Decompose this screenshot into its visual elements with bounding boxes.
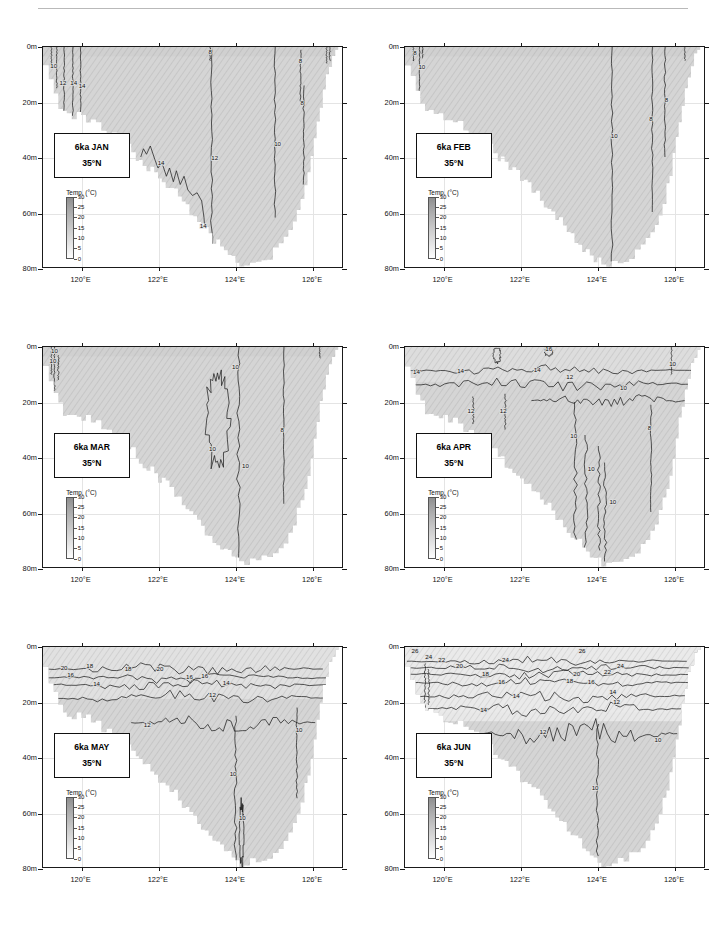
contour-label: 8: [649, 115, 653, 122]
colorbar-gradient: [66, 797, 74, 859]
contour-label: 14: [79, 82, 86, 89]
colorbar-tick-label: 20: [78, 514, 85, 520]
colorbar-tick-mark: [436, 228, 439, 229]
colorbar-tick-mark: [436, 248, 439, 249]
y-axis-tick: [704, 403, 709, 404]
colorbar-tick-label: 25: [440, 204, 447, 210]
contour-label: 8: [648, 424, 652, 431]
x-axis-tick: [675, 267, 676, 271]
x-axis-tick: [444, 267, 445, 271]
contour-label: 8: [665, 96, 669, 103]
colorbar-tick-mark: [74, 197, 77, 198]
colorbar-tick-label: 30: [78, 194, 85, 200]
y-axis-tick: [400, 569, 405, 570]
y-axis-label: 20m: [372, 397, 399, 406]
y-axis-tick: [704, 514, 709, 515]
contour-label: 22: [438, 656, 445, 663]
colorbar-tick-mark: [74, 548, 77, 549]
y-axis-label: 80m: [10, 264, 37, 273]
contour-label: 22: [604, 668, 611, 675]
x-axis-label: 122°E: [148, 575, 168, 584]
x-axis-tick: [82, 867, 83, 871]
panel-latitude-label: 35°N: [444, 759, 463, 768]
colorbar-gradient: [428, 497, 436, 559]
y-axis-label: 20m: [372, 697, 399, 706]
y-axis-label: 40m: [10, 753, 37, 762]
x-axis-tick: [313, 867, 314, 871]
contour-label: 26: [412, 647, 419, 654]
colorbar-ticks: 302520151050: [438, 197, 454, 259]
panel-month-label: 6ka MAY: [74, 743, 109, 752]
y-axis-tick: [704, 869, 709, 870]
colorbar-tick-mark: [74, 538, 77, 539]
colorbar-tick-mark: [74, 238, 77, 239]
colorbar-tick-mark: [74, 848, 77, 849]
y-axis-tick: [342, 403, 347, 404]
y-axis-tick: [704, 347, 709, 348]
y-axis-tick: [704, 47, 709, 48]
contour-label: 10: [611, 132, 618, 139]
x-axis-label: 126°E: [302, 575, 322, 584]
colorbar-tick-mark: [436, 207, 439, 208]
colorbar-tick-mark: [436, 817, 439, 818]
colorbar-tick-label: 30: [440, 794, 447, 800]
colorbar-tick-mark: [74, 817, 77, 818]
y-axis-label: 40m: [372, 153, 399, 162]
y-axis-label: 60m: [10, 508, 37, 517]
y-axis-tick: [342, 347, 347, 348]
contour-label: 8: [413, 49, 417, 56]
colorbar-tick-mark: [436, 238, 439, 239]
x-axis-tick: [444, 567, 445, 571]
colorbar-tick-label: 20: [440, 214, 447, 220]
contour-label: 12: [613, 698, 620, 705]
y-axis-tick: [704, 214, 709, 215]
y-axis-tick: [342, 869, 347, 870]
contour-label: 14: [200, 222, 207, 229]
y-axis-tick: [342, 569, 347, 570]
colorbar-tick-mark: [74, 517, 77, 518]
contour-label: 14: [93, 680, 100, 687]
contour-label: 12: [500, 407, 507, 414]
y-axis-tick: [400, 269, 405, 270]
y-axis-label: 0m: [372, 642, 399, 651]
colorbar-tick-mark: [436, 517, 439, 518]
x-axis-label: 122°E: [148, 875, 168, 884]
contour-label: 16: [545, 347, 552, 352]
contour-label: 10: [296, 726, 303, 733]
colorbar-tick-label: 5: [78, 845, 81, 851]
contour-label: 18: [125, 665, 132, 672]
contour-label: 18: [86, 662, 93, 669]
contour-label: 10: [51, 347, 58, 354]
plot-area-jun: 2426242226202418222016181614141412121010…: [404, 646, 705, 868]
colorbar-tick-mark: [436, 528, 439, 529]
panel-id-box-apr: 6ka APR35°N: [416, 433, 492, 478]
y-axis-label: 40m: [372, 753, 399, 762]
contour-label: 14: [158, 159, 165, 166]
y-axis-tick: [342, 269, 347, 270]
contour-label: 12: [209, 691, 216, 698]
plot-area-mar: 101010101086ka MAR35°NTemp. (°C)30252015…: [42, 346, 343, 568]
y-axis-tick: [704, 758, 709, 759]
plot-area-may: 20201818161616141412121010106ka MAY35°NT…: [42, 646, 343, 868]
contour-label: 10: [239, 814, 246, 821]
contour-label: 20: [573, 670, 580, 677]
x-axis-label: 124°E: [225, 575, 245, 584]
x-axis-label: 120°E: [70, 575, 90, 584]
colorbar-tick-label: 15: [78, 225, 85, 231]
contour-label: 14: [480, 706, 487, 713]
colorbar-tick-label: 15: [440, 225, 447, 231]
y-axis-tick: [342, 214, 347, 215]
y-axis-label: 80m: [372, 264, 399, 273]
colorbar-tick-mark: [74, 497, 77, 498]
colorbar-gradient: [428, 197, 436, 259]
y-axis-tick: [704, 647, 709, 648]
contour-label: 12: [211, 154, 218, 161]
colorbar-tick-mark: [436, 259, 439, 260]
y-axis-tick: [342, 647, 347, 648]
colorbar-tick-mark: [436, 797, 439, 798]
y-axis-tick: [704, 158, 709, 159]
x-axis-tick: [444, 867, 445, 871]
plot-area-apr: 14141412101212101010816106ka APR35°NTemp…: [404, 346, 705, 568]
colorbar-tick-label: 15: [440, 825, 447, 831]
contour-label: 14: [513, 692, 520, 699]
